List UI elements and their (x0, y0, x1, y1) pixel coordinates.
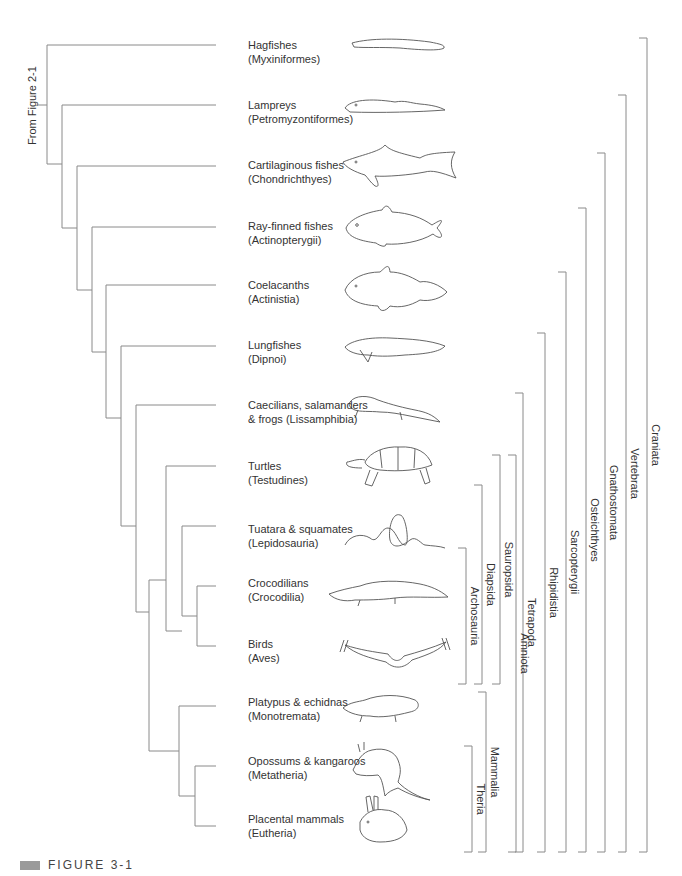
clade-bracket (537, 333, 545, 852)
clade-label: Theria (475, 783, 487, 815)
taxon-formal-name: (Dipnoi) (248, 352, 301, 366)
animal-icons (329, 39, 456, 842)
caption-marker (20, 861, 40, 870)
taxon-common-name: Tuatara & squamates (248, 522, 353, 536)
taxon-common-name: Caecilians, salamanders (248, 398, 368, 412)
taxon-formal-name: (Crocodilia) (248, 590, 309, 604)
taxon-formal-name: (Metatheria) (248, 768, 365, 782)
taxon-label: Lungfishes(Dipnoi) (248, 338, 301, 366)
taxon-label: Ray-finned fishes(Actinopterygii) (248, 219, 333, 247)
taxon-common-name: Lampreys (248, 98, 353, 112)
taxon-common-name: Turtles (248, 459, 308, 473)
taxon-formal-name: (Chondrichthyes) (248, 172, 344, 186)
crocodile-icon (329, 581, 448, 606)
coelacanth-icon (345, 267, 447, 311)
lamprey-icon (345, 100, 445, 112)
taxon-formal-name: (Testudines) (248, 473, 308, 487)
taxon-common-name: Placental mammals (248, 812, 344, 826)
clade-label: Sarcopterygii (569, 530, 581, 594)
turtle-icon (347, 447, 432, 486)
ray-finned-fish-icon (346, 206, 442, 246)
clade-label: Gnathostomata (608, 465, 620, 541)
clade-label: Sauropsida (503, 542, 515, 599)
taxon-common-name: Cartilaginous fishes (248, 158, 344, 172)
taxon-formal-name: (Eutheria) (248, 826, 344, 840)
taxon-formal-name: & frogs (Lissamphibia) (248, 412, 368, 426)
figure-caption: FIGURE 3-1 (20, 858, 134, 872)
tree-branches (38, 45, 216, 826)
taxon-common-name: Lungfishes (248, 338, 301, 352)
taxon-label: Opossums & kangaroos(Metatheria) (248, 754, 365, 782)
taxon-label: Caecilians, salamanders& frogs (Lissamph… (248, 398, 368, 426)
bird-icon (340, 638, 450, 667)
clade-label: Vertebrata (629, 448, 641, 500)
clade-bracket (464, 746, 472, 852)
clade-bracket (558, 272, 566, 852)
platypus-icon (343, 696, 418, 723)
taxon-common-name: Opossums & kangaroos (248, 754, 365, 768)
taxon-formal-name: (Monotremata) (248, 709, 348, 723)
clade-brackets (458, 38, 647, 852)
taxon-label: Cartilaginous fishes(Chondrichthyes) (248, 158, 344, 186)
clade-label: Diapsida (485, 563, 497, 607)
taxon-formal-name: (Lepidosauria) (248, 536, 353, 550)
taxon-label: Tuatara & squamates(Lepidosauria) (248, 522, 353, 550)
taxon-common-name: Platypus & echidnas (248, 695, 348, 709)
taxon-formal-name: (Actinistia) (248, 292, 309, 306)
taxon-common-name: Birds (248, 637, 280, 651)
taxon-label: Lampreys(Petromyzontiformes) (248, 98, 353, 126)
taxon-label: Coelacanths(Actinistia) (248, 278, 309, 306)
clade-bracket (508, 455, 516, 852)
taxon-formal-name: (Myxiniformes) (248, 52, 320, 66)
root-label: From Figure 2-1 (26, 66, 38, 145)
clade-label: Tetrapoda (526, 598, 538, 648)
clade-label: Craniata (650, 424, 662, 466)
taxon-label: Crocodilians(Crocodilia) (248, 576, 309, 604)
taxon-common-name: Ray-finned fishes (248, 219, 333, 233)
lungfish-icon (345, 338, 445, 362)
phylogenetic-tree: From Figure 2-1 ArchosauriaDiapsidaSauro… (0, 0, 682, 876)
taxon-label: Platypus & echidnas(Monotremata) (248, 695, 348, 723)
clade-bracket (639, 38, 647, 852)
taxon-label: Placental mammals(Eutheria) (248, 812, 344, 840)
taxon-formal-name: (Actinopterygii) (248, 233, 333, 247)
shark-icon (343, 145, 456, 186)
taxon-label: Turtles(Testudines) (248, 459, 308, 487)
caption-text: FIGURE 3-1 (48, 858, 134, 872)
taxon-formal-name: (Aves) (248, 651, 280, 665)
clade-bracket (458, 548, 466, 684)
taxon-common-name: Hagfishes (248, 38, 320, 52)
taxon-common-name: Coelacanths (248, 278, 309, 292)
taxon-common-name: Crocodilians (248, 576, 309, 590)
taxon-formal-name: (Petromyzontiformes) (248, 112, 353, 126)
hagfish-icon (352, 39, 444, 50)
clade-label: Archosauria (469, 587, 481, 647)
clade-bracket (474, 485, 482, 684)
clade-label: Rhipidistia (548, 567, 560, 619)
taxon-label: Birds(Aves) (248, 637, 280, 665)
taxon-label: Hagfishes(Myxiniformes) (248, 38, 320, 66)
clade-bracket (478, 692, 486, 852)
clade-label: Osteichthyes (589, 498, 601, 562)
snake-icon (345, 515, 445, 548)
rabbit-icon (360, 796, 407, 842)
clade-label: Mammalia (489, 747, 501, 799)
